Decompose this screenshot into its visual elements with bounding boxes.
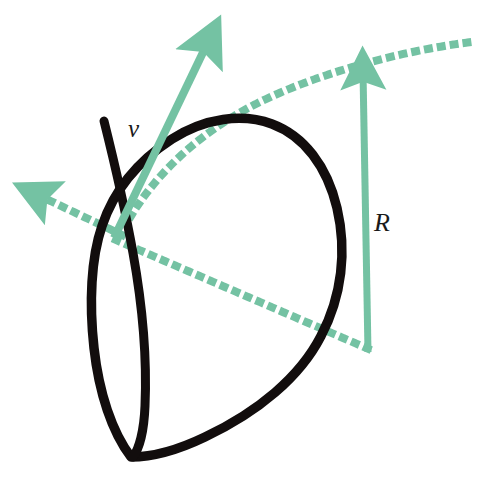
velocity-label: v — [128, 115, 140, 142]
radius-vector-arrow — [363, 72, 368, 352]
diagram-svg: v R — [0, 0, 491, 477]
figure-canvas: v R — [0, 0, 491, 477]
radius-label: R — [373, 208, 390, 237]
trajectory-curve-outer — [91, 118, 342, 457]
